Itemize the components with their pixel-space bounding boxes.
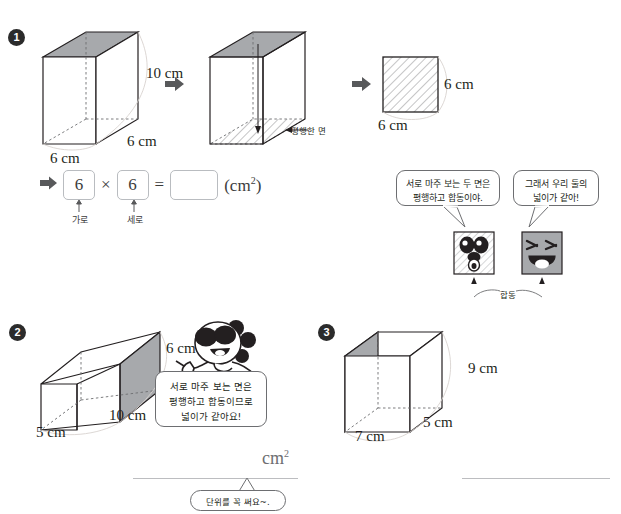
dog-speech-line-2: 평행하고 합동이므로 [165,394,257,409]
problem-2-width-label: 5 cm [36,424,66,441]
callout-bubble-right-line-1: 그래서 우리 둘의 [522,177,590,191]
problem-1-width-label: 6 cm [50,150,80,167]
problem-3-width-label: 7 cm [355,428,385,445]
area-equation: 6 × 6 = (cm2) [63,170,261,200]
arrow-right-icon-1 [165,76,185,92]
answer-line-2[interactable] [133,478,298,479]
problem-1-square-bottom-label: 6 cm [378,117,408,134]
equation-unit-label: (cm2) [224,175,261,196]
equation-label-sero: 세로 [119,213,151,226]
problem-1-square-right-label: 6 cm [444,76,474,93]
dog-speech-line-1: 서로 마주 보는 면은 [165,379,257,394]
callout-bubble-right: 그래서 우리 둘의 넓이가 같아! [513,170,599,206]
equation-answer-field[interactable] [170,170,218,200]
answer-line-2-value[interactable] [135,455,255,477]
problem-3-depth-label: 5 cm [423,414,453,431]
answer-unit-exponent: 2 [284,448,289,459]
congruent-label: 합동 [500,288,516,300]
equation-factor-2-field[interactable]: 6 [117,170,149,200]
callout-bubble-right-tail [529,205,555,229]
dog-speech-bubble: 서로 마주 보는 면은 평행하고 합동이므로 넓이가 같아요! [155,371,267,427]
callout-bubble-left: 서로 마주 보는 두 면은 평행하고 합동이야. [396,170,500,206]
equation-tick-1 [76,200,82,212]
equation-label-garo: 가로 [64,213,96,226]
character-face-hatched [452,230,496,276]
answer-line-3[interactable] [462,478,610,479]
dog-speech-line-3: 넓이가 같아요! [165,409,257,424]
equation-arrow-icon [40,176,58,190]
callout-bubble-left-tail [443,205,469,229]
answer-unit-text: cm [262,448,284,468]
equation-factor-1-field[interactable]: 6 [63,170,95,200]
equation-unit-exponent: 2 [251,175,256,186]
parallel-face-annotation: 평행한 면 [291,124,326,136]
character-face-gray [520,230,564,276]
answer-line-3-value[interactable] [465,455,605,477]
equation-tick-2 [131,200,137,212]
problem-2-depth-label: 10 cm [109,407,146,424]
problem-2-badge: 2 [9,324,26,341]
callout-bubble-right-line-2: 넓이가 같아! [522,191,590,205]
equation-multiply-operator: × [101,175,111,195]
equation-equals-operator: = [155,175,165,195]
callout-bubble-left-line-2: 평행하고 합동이야. [405,191,491,205]
problem-3-badge: 3 [318,324,335,341]
problem-1-depth-label: 6 cm [127,133,157,150]
callout-bubble-left-line-1: 서로 마주 보는 두 면은 [405,177,491,191]
equation-unit-text: cm [230,175,251,194]
answer-line-2-unit: cm2 [262,448,289,469]
problem-1-badge: 1 [8,29,25,46]
unit-hint-bubble: 단위를 꼭 써요~. [190,490,286,511]
problem-3-height-label: 9 cm [468,360,498,377]
unit-hint-text: 단위를 꼭 써요~. [206,497,269,507]
arrow-right-icon-2 [352,76,372,92]
